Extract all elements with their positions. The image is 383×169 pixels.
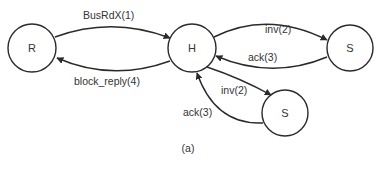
figure-caption: (a) <box>182 142 195 154</box>
edge-label-inv-s2: inv(2) <box>221 84 247 96</box>
node-r-label: R <box>28 42 36 54</box>
node-s2-label: S <box>281 107 288 119</box>
node-s1: S <box>327 25 373 71</box>
edge-label-busrdx: BusRdX(1) <box>83 9 134 21</box>
edge-label-inv-s1: inv(2) <box>265 23 291 35</box>
node-h: H <box>168 24 216 72</box>
node-s1-label: S <box>346 42 353 54</box>
node-h-label: H <box>188 42 196 54</box>
node-r: R <box>8 24 56 72</box>
edge-label-block-reply: block_reply(4) <box>74 75 140 87</box>
edge-busrdx <box>55 27 170 38</box>
node-s2: S <box>262 90 308 136</box>
diagram-canvas: R H S S BusRdX(1) block_reply(4) inv(2) … <box>0 0 383 169</box>
edge-block-reply <box>57 58 170 71</box>
edge-label-ack-s2: ack(3) <box>183 106 212 118</box>
edge-label-ack-s1: ack(3) <box>248 51 277 63</box>
